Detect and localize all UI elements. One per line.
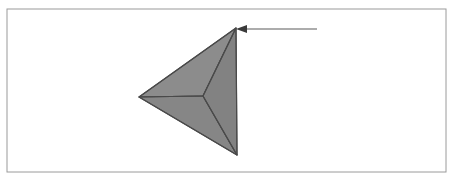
figure-container: Tetrahedron with apex annotation arrow S… xyxy=(0,0,455,181)
tetrahedron-figure xyxy=(0,0,455,181)
